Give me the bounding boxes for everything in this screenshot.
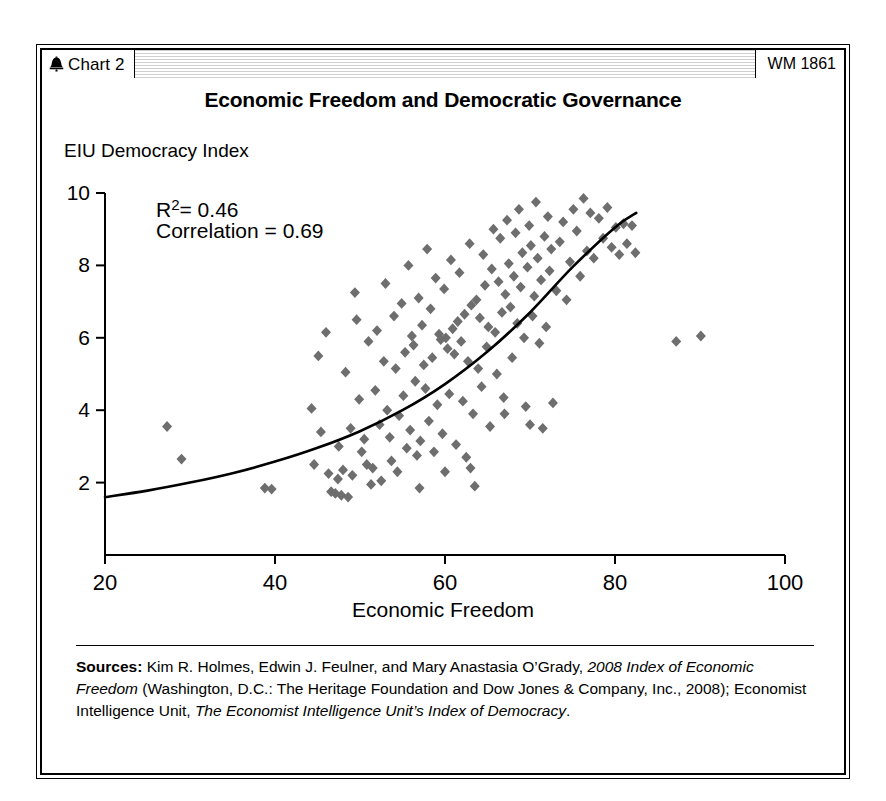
scatter-point bbox=[397, 298, 407, 309]
scatter-point bbox=[338, 465, 348, 476]
scatter-point bbox=[429, 446, 439, 457]
annotation-correlation: Correlation = 0.69 bbox=[156, 219, 324, 242]
scatter-point bbox=[461, 452, 471, 463]
scatter-point bbox=[505, 302, 515, 313]
scatter-point bbox=[267, 484, 277, 495]
chart-number-label: Chart 2 bbox=[68, 56, 124, 73]
chart-header-band: Chart 2 WM 1861 bbox=[42, 50, 844, 78]
y-tick-label-4: 4 bbox=[78, 398, 90, 421]
scatter-point bbox=[379, 356, 389, 367]
scatter-point bbox=[507, 352, 517, 363]
scatter-point bbox=[409, 340, 419, 351]
scatter-point bbox=[446, 255, 456, 266]
scatter-point bbox=[494, 276, 504, 287]
scatter-point bbox=[385, 432, 395, 443]
y-tick-label-2: 2 bbox=[78, 471, 90, 494]
scatter-point bbox=[386, 455, 396, 466]
scatter-point bbox=[519, 332, 529, 343]
scatter-point bbox=[313, 351, 323, 362]
plot-area: EIU Democracy Index 246810 20406080100 R… bbox=[42, 120, 844, 630]
scatter-point bbox=[622, 238, 632, 249]
scatter-point bbox=[465, 238, 475, 249]
scatter-point bbox=[415, 436, 425, 447]
scatter-point bbox=[468, 408, 478, 419]
scatter-point bbox=[341, 367, 351, 378]
scatter-point bbox=[529, 291, 539, 302]
x-tick-labels-group: 20406080100 bbox=[93, 570, 804, 595]
footer-divider bbox=[76, 645, 814, 646]
scatter-point bbox=[376, 475, 386, 486]
scatter-point bbox=[499, 392, 509, 403]
scatter-point bbox=[437, 428, 447, 439]
scatter-point bbox=[533, 253, 543, 264]
x-tick-label-100: 100 bbox=[767, 570, 804, 595]
scatter-point bbox=[352, 314, 362, 325]
trendline-path bbox=[105, 213, 636, 497]
scatter-point bbox=[307, 403, 317, 414]
y-tick-label-6: 6 bbox=[78, 326, 90, 349]
scatter-point bbox=[475, 312, 485, 323]
scatter-point bbox=[526, 240, 536, 251]
scatter-point bbox=[162, 421, 172, 432]
scatter-point bbox=[417, 320, 427, 331]
scatter-point bbox=[364, 336, 374, 347]
scatter-point bbox=[451, 439, 461, 450]
scatter-point bbox=[524, 220, 534, 231]
scatter-point bbox=[572, 226, 582, 237]
scatter-point bbox=[419, 360, 429, 371]
scatter-point bbox=[602, 202, 612, 213]
scatter-point bbox=[568, 204, 578, 215]
scatter-point bbox=[458, 396, 468, 407]
scatter-point bbox=[324, 468, 334, 479]
y-tick-labels-group: 246810 bbox=[67, 181, 91, 494]
sources-seg-4-italic: The Economist Intelligence Unit’s Index … bbox=[195, 702, 566, 719]
scatter-point bbox=[381, 278, 391, 289]
scatter-point bbox=[555, 236, 565, 247]
y-tick-label-10: 10 bbox=[67, 181, 90, 204]
scatter-point bbox=[346, 423, 356, 434]
scatter-point bbox=[410, 376, 420, 387]
scatter-point bbox=[403, 260, 413, 271]
scatter-point bbox=[359, 434, 369, 445]
scatter-point bbox=[579, 193, 589, 204]
scatter-point bbox=[630, 247, 640, 258]
scatter-point bbox=[440, 466, 450, 477]
annotation-r-squared: R2= 0.46 bbox=[156, 196, 239, 221]
scatter-point bbox=[357, 446, 367, 457]
scatter-point bbox=[516, 282, 526, 293]
wm-number-label: WM 1861 bbox=[768, 56, 836, 72]
scatter-point bbox=[548, 398, 558, 409]
scatter-point bbox=[372, 325, 382, 336]
x-tick-label-80: 80 bbox=[603, 570, 627, 595]
scatter-point bbox=[420, 383, 430, 394]
scatter-point bbox=[321, 327, 331, 338]
scatter-point bbox=[177, 454, 187, 465]
scatter-point bbox=[509, 271, 519, 282]
scatter-point bbox=[500, 408, 510, 419]
scatter-point bbox=[347, 470, 357, 481]
scatter-point bbox=[473, 363, 483, 374]
scatter-point bbox=[558, 217, 568, 228]
scatter-plot-svg: EIU Democracy Index 246810 20406080100 R… bbox=[42, 120, 844, 630]
scatter-point bbox=[456, 336, 466, 347]
scatter-point bbox=[488, 224, 498, 235]
scatter-point bbox=[370, 385, 380, 396]
y-axis-title-group: EIU Democracy Index bbox=[64, 140, 249, 161]
scatter-point bbox=[495, 233, 505, 244]
scatter-point bbox=[531, 197, 541, 208]
scatter-point bbox=[422, 244, 432, 255]
scatter-point bbox=[521, 401, 531, 412]
scatter-point bbox=[412, 450, 422, 461]
scatter-point bbox=[543, 211, 553, 222]
scatter-point bbox=[309, 459, 319, 470]
scatter-point bbox=[585, 208, 595, 219]
chart-title: Economic Freedom and Democratic Governan… bbox=[42, 88, 844, 112]
sources-note: Sources: Kim R. Holmes, Edwin J. Feulner… bbox=[76, 656, 818, 722]
scatter-point bbox=[460, 309, 470, 320]
scatter-point bbox=[392, 466, 402, 477]
scatter-point bbox=[480, 280, 490, 291]
scatter-point bbox=[545, 265, 555, 276]
scatter-point bbox=[575, 271, 585, 282]
scatter-point bbox=[350, 287, 360, 298]
axis-lines-group bbox=[96, 193, 785, 564]
